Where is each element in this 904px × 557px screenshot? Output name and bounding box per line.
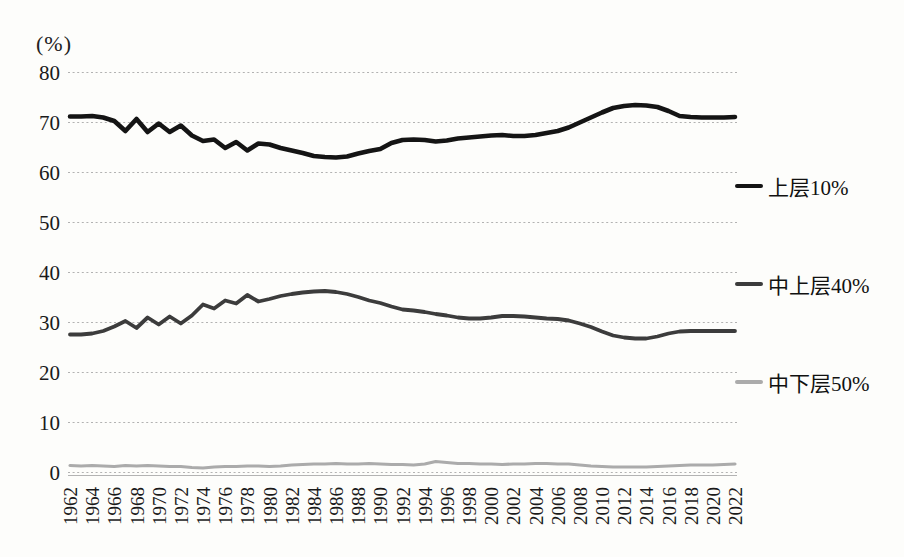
legend-label-middle40: 中上层40% [768,269,870,299]
legend-label-top10: 上层10% [768,171,849,201]
x-tick-label: 1976 [215,487,236,525]
x-tick-label: 2002 [503,487,524,525]
x-tick-label: 2008 [570,487,591,525]
y-tick-label: 60 [39,161,60,185]
x-tick-label: 2010 [592,487,613,525]
x-tick-label: 1966 [104,487,125,525]
y-tick-label: 0 [50,461,61,485]
x-tick-label: 1998 [459,487,480,525]
x-tick-label: 2014 [636,487,657,526]
legend-label-bottom50: 中下层50% [768,367,870,397]
x-tick-label: 1970 [149,487,170,525]
chart-legend: 上层10% 中上层40% 中下层50% [733,0,904,557]
legend-line-swatch-bottom50 [735,380,763,383]
x-tick-label: 1982 [282,487,303,525]
wealth-share-line-chart: (%) 010203040506070801962196419661968197… [0,0,904,557]
x-tick-label: 1988 [348,487,369,525]
x-tick-label: 1984 [304,487,325,526]
x-tick-label: 1974 [193,487,214,526]
x-tick-label: 2012 [614,487,635,525]
series-line-middle40 [70,291,735,339]
x-tick-label: 1994 [415,487,436,526]
x-tick-label: 2000 [481,487,502,525]
x-tick-label: 1972 [171,487,192,525]
x-tick-label: 2018 [681,487,702,525]
x-tick-label: 1962 [60,487,81,525]
legend-item-middle40: 中上层40% [735,269,870,299]
x-tick-label: 1996 [437,487,458,525]
x-tick-label: 1986 [326,487,347,525]
legend-item-top10: 上层10% [735,171,849,201]
y-axis-labels: 01020304050607080 [39,61,60,485]
x-tick-label: 2004 [526,487,547,526]
x-tick-label: 2006 [548,487,569,525]
y-tick-label: 50 [39,211,60,235]
legend-line-swatch-top10 [735,184,763,189]
y-tick-label: 70 [39,111,60,135]
x-tick-label: 1968 [127,487,148,525]
x-axis-labels: 1962196419661968197019721974197619781980… [60,487,746,526]
x-tick-label: 2016 [659,487,680,525]
y-tick-label: 20 [39,361,60,385]
x-tick-label: 1964 [82,487,103,526]
y-tick-label: 10 [39,411,60,435]
series-line-top10 [70,105,735,158]
x-tick-label: 1978 [237,487,258,525]
y-tick-label: 80 [39,61,60,85]
series-line-bottom50 [70,462,735,469]
legend-item-bottom50: 中下层50% [735,367,870,397]
x-tick-label: 1990 [370,487,391,525]
x-tick-label: 1992 [393,487,414,525]
series-lines [70,105,735,468]
legend-line-swatch-middle40 [735,282,763,286]
x-tick-label: 1980 [260,487,281,525]
y-tick-label: 40 [39,261,60,285]
x-tick-label: 2020 [703,487,724,525]
y-tick-label: 30 [39,311,60,335]
